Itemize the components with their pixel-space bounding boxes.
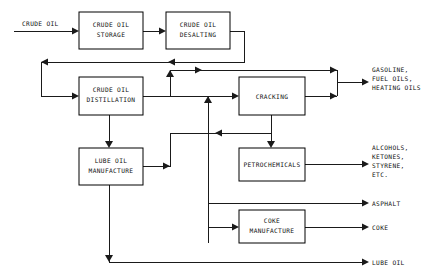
arrowhead-petrochemicals-output [362,161,369,168]
arrowhead-distillation-riser [166,70,174,77]
arrowhead-coke-recycle-riser [204,96,212,103]
arrowhead-cracking-topline [195,67,202,74]
connector-lube-to-petrochem-line [143,133,170,166]
arrowhead-crude-oil-input [72,28,79,35]
box-crude-oil-desalting[interactable]: CRUDE OIL DESALTING [166,12,230,49]
box-lube-oil-manufacture[interactable]: LUBE OIL MANUFACTURE [79,148,143,185]
arrowhead-into-lube [105,141,113,148]
gasoline-output-line2: FUEL OILS, [372,75,413,82]
crude-oil-storage-line1: CRUDE OIL [93,21,130,28]
connector-lube-oil-output [109,185,362,262]
arrowhead-desalting-recycle-left [41,59,48,66]
petrochemicals-line1: PETROCHEMICALS [243,161,300,168]
arrowhead-into-distillation [72,93,79,100]
label-coke-output: COKE [372,224,388,231]
arrowhead-gasoline-output [362,79,369,86]
box-crude-oil-storage[interactable]: CRUDE OIL STORAGE [79,12,143,49]
arrowhead-desalting-recycle-mid [168,59,175,66]
label-lube-oil-output: LUBE OIL [372,259,405,266]
arrowhead-petrochem-feed-left [215,130,222,137]
box-coke-manufacture[interactable]: COKE MANUFACTURE [239,210,305,243]
crude-oil-desalting-line1: CRUDE OIL [180,21,217,28]
flow-diagram-canvas: CRUDE OIL STORAGE CRUDE OIL DESALTING CR… [0,0,435,277]
arrowhead-into-coke [232,224,239,231]
arrowhead-lube-oil-output [362,259,369,266]
arrowhead-coke-output [362,224,369,231]
box-cracking[interactable]: CRACKING [239,77,305,115]
gasoline-output-line3: HEATING OILS [372,84,421,91]
arrowhead-cracking-to-collector [330,93,337,100]
alcohols-output-line3: STYRENE, [372,162,405,169]
lube-oil-manufacture-line2: MANUFACTURE [89,167,134,174]
connector-left-riser-to-distillation [41,62,72,96]
alcohols-output-line2: KETONES, [372,153,405,160]
label-gasoline-fuel-heating-oils-output: GASOLINE, FUEL OILS, HEATING OILS [372,66,421,91]
crude-oil-distillation-line1: CRUDE OIL [93,86,130,93]
arrowhead-storage-to-desalting [159,28,166,35]
crude-oil-distillation-line2: DISTILLATION [87,96,136,103]
label-crude-oil-input: CRUDE OIL [22,20,59,27]
crude-oil-storage-line2: STORAGE [97,31,126,38]
arrowhead-topline-to-collector [330,67,337,74]
arrowhead-asphalt-output [362,200,369,207]
box-petrochemicals[interactable]: PETROCHEMICALS [239,148,305,181]
arrowhead-into-cracking [232,93,239,100]
arrowhead-lube-right [163,163,170,170]
label-asphalt-output: ASPHALT [372,200,401,207]
lube-oil-manufacture-line1: LUBE OIL [95,157,128,164]
alcohols-output-line1: ALCOHOLS, [372,144,409,151]
coke-manufacture-line2: MANUFACTURE [250,227,295,234]
crude-oil-desalting-line2: DESALTING [180,31,217,38]
arrowhead-into-petrochemicals [267,141,275,148]
box-crude-oil-distillation[interactable]: CRUDE OIL DISTILLATION [79,77,143,115]
cracking-line1: CRACKING [256,93,289,100]
label-alcohols-ketones-styrene-output: ALCOHOLS, KETONES, STYRENE, ETC. [372,144,409,178]
coke-manufacture-line1: COKE [264,217,280,224]
arrowhead-lube-oil-turn [105,255,113,262]
process-flow-diagram: CRUDE OIL STORAGE CRUDE OIL DESALTING CR… [0,0,435,277]
gasoline-output-line1: GASOLINE, [372,66,409,73]
alcohols-output-line4: ETC. [372,171,388,178]
